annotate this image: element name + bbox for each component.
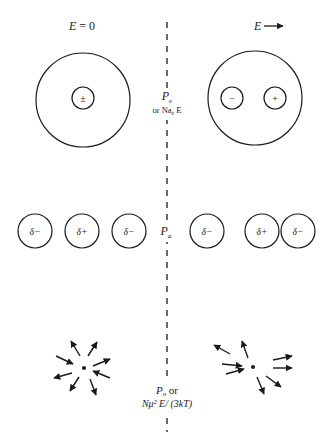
dipole-arrow-icon	[88, 342, 97, 356]
field-zero-label: E = 0	[68, 19, 95, 33]
partial-charge-symbol: δ+	[77, 227, 88, 237]
dipole-arrow-icon	[54, 373, 72, 378]
dipole-arrow-icon	[226, 369, 244, 374]
aligned-dipoles-right	[214, 341, 292, 394]
partial-charge-symbol: δ−	[30, 227, 41, 237]
orientation-label: Po or	[155, 384, 178, 397]
field-zero-rest: = 0	[76, 19, 95, 33]
dipole-arrow-icon	[242, 341, 248, 358]
dipole-center-dot	[82, 366, 86, 370]
displaced-charges: −+	[221, 87, 286, 109]
dipole-arrow-icon	[257, 377, 264, 394]
electron-cloud-right	[208, 51, 302, 145]
nucleus-symbol: ±	[80, 93, 86, 104]
orientation-formula: Nμ² E/ (3kT)	[141, 398, 193, 410]
orientation-row: Po or Nμ² E/ (3kT)	[54, 341, 292, 414]
random-dipoles-left	[54, 341, 110, 395]
atoms-right: δ−δ+δ−	[190, 214, 315, 248]
partial-charge-symbol: δ−	[293, 227, 304, 237]
dipole-center-dot	[251, 365, 255, 369]
charge-symbol: −	[229, 93, 235, 104]
atoms-left: δ−δ+δ−	[18, 214, 146, 248]
partial-charge-symbol: δ−	[124, 227, 135, 237]
dipole-arrow-icon	[266, 376, 281, 387]
header-left: E = 0	[68, 19, 95, 33]
field-on-label: E	[253, 19, 262, 33]
partial-charge-symbol: δ−	[202, 227, 213, 237]
header-right: E	[253, 19, 283, 33]
dipole-arrow-icon	[71, 341, 80, 356]
dipole-arrow-icon	[93, 371, 110, 378]
partial-charge-symbol: δ+	[257, 227, 268, 237]
electronic-row: ± −+ Pe or Nae E	[36, 51, 302, 147]
dipole-arrow-icon	[90, 379, 96, 395]
electronic-formula: or Nae E	[152, 105, 181, 116]
dipole-arrow-icon	[93, 359, 110, 366]
polarization-diagram: E = 0 E ± −+ Pe or Nae E δ−δ+δ− δ−δ+δ− P…	[0, 0, 333, 439]
dipole-arrow-icon	[70, 377, 79, 391]
dipole-arrow-icon	[273, 356, 292, 360]
dipole-arrow-icon	[222, 364, 242, 366]
dipole-arrow-icon	[214, 345, 230, 354]
charge-symbol: +	[272, 93, 278, 104]
dipole-arrow-icon	[56, 356, 73, 364]
